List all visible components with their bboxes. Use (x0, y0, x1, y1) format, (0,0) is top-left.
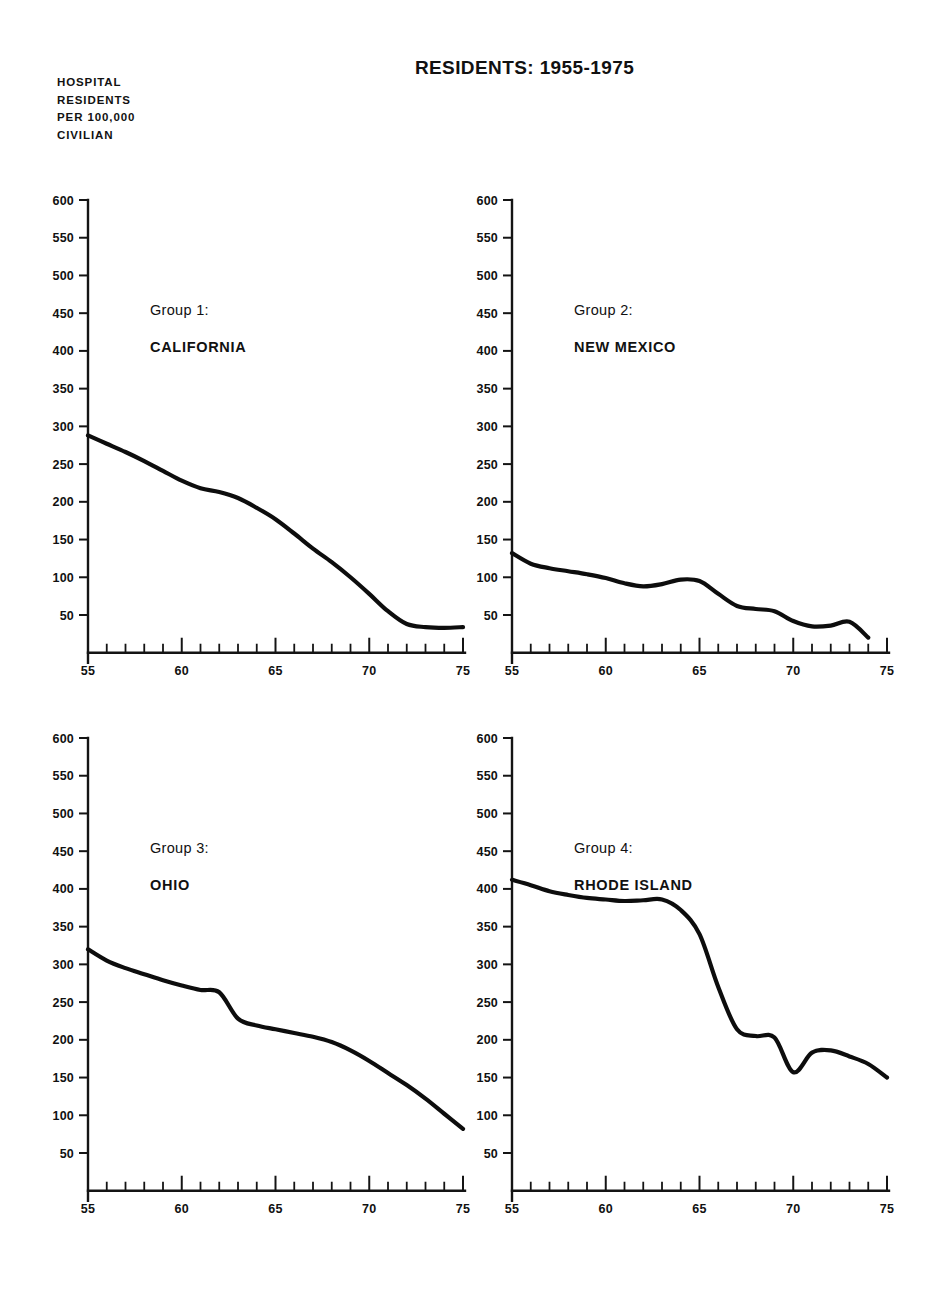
y-tick-label: 400 (477, 344, 498, 358)
y-tick-label: 350 (477, 920, 498, 934)
y-tick-label: 600 (477, 732, 498, 746)
panel-4-yaxis: 50100150200250300350400450500550600 (477, 732, 512, 1201)
y-tick-label: 200 (53, 495, 74, 509)
y-tick-label: 550 (477, 231, 498, 245)
y-tick-label: 550 (53, 231, 74, 245)
x-tick-label: 70 (786, 1202, 800, 1216)
y-tick-label: 300 (477, 420, 498, 434)
panel-2-group-label: Group 2: (574, 302, 633, 318)
x-tick-label: 55 (505, 1202, 519, 1216)
series-line-new-mexico (512, 553, 868, 638)
y-tick-label: 300 (53, 420, 74, 434)
panel-2-group-name: NEW MEXICO (574, 339, 676, 355)
panel-rhode-island: 50100150200250300350400450500550600 5560… (444, 723, 914, 1233)
panel-4-group-label: Group 4: (574, 840, 633, 856)
series-line-rhode-island (512, 880, 887, 1078)
panel-2-svg: 50100150200250300350400450500550600 5560… (444, 185, 914, 695)
y-tick-label: 100 (477, 1109, 498, 1123)
y-axis-caption: HOSPITALRESIDENTSPER 100,000CIVILIAN (57, 74, 135, 144)
y-tick-label: 200 (477, 495, 498, 509)
x-tick-label: 60 (599, 1202, 613, 1216)
y-tick-label: 550 (477, 769, 498, 783)
y-tick-label: 450 (477, 307, 498, 321)
x-tick-label: 65 (692, 1202, 706, 1216)
panel-2-xaxis: 5560657075 (505, 638, 894, 678)
panel-1-xaxis: 5560657075 (81, 638, 470, 678)
chart-page: HOSPITALRESIDENTSPER 100,000CIVILIAN RES… (0, 0, 934, 1307)
panel-1-yaxis: 50100150200250300350400450500550600 (53, 194, 88, 663)
panel-3-xaxis: 5560657075 (81, 1176, 470, 1216)
y-tick-label: 350 (477, 382, 498, 396)
panel-3-group-label: Group 3: (150, 840, 209, 856)
y-tick-label: 400 (477, 882, 498, 896)
panel-3-yaxis: 50100150200250300350400450500550600 (53, 732, 88, 1201)
panel-4-group-name: RHODE ISLAND (574, 877, 693, 893)
series-line-ohio (88, 949, 463, 1129)
y-tick-label: 600 (53, 194, 74, 208)
y-tick-label: 350 (53, 382, 74, 396)
x-tick-label: 75 (880, 664, 894, 678)
y-tick-label: 600 (477, 194, 498, 208)
panel-new-mexico: 50100150200250300350400450500550600 5560… (444, 185, 914, 695)
y-tick-label: 50 (484, 1147, 498, 1161)
y-tick-label: 250 (53, 458, 74, 472)
panel-ohio: 50100150200250300350400450500550600 5560… (20, 723, 490, 1233)
y-tick-label: 450 (53, 845, 74, 859)
y-tick-label: 400 (53, 882, 74, 896)
y-tick-label: 500 (477, 807, 498, 821)
x-tick-label: 60 (599, 664, 613, 678)
y-tick-label: 150 (477, 1071, 498, 1085)
y-tick-label: 250 (477, 996, 498, 1010)
y-tick-label: 100 (477, 571, 498, 585)
x-tick-label: 65 (268, 1202, 282, 1216)
panel-3-svg: 50100150200250300350400450500550600 5560… (20, 723, 490, 1233)
y-tick-label: 150 (53, 533, 74, 547)
x-tick-label: 70 (362, 664, 376, 678)
y-tick-label: 500 (477, 269, 498, 283)
y-tick-label: 350 (53, 920, 74, 934)
panel-3-group-name: OHIO (150, 877, 190, 893)
x-tick-label: 65 (692, 664, 706, 678)
y-tick-label: 600 (53, 732, 74, 746)
y-tick-label: 50 (484, 609, 498, 623)
y-tick-label: 150 (53, 1071, 74, 1085)
x-tick-label: 75 (880, 1202, 894, 1216)
panel-4-svg: 50100150200250300350400450500550600 5560… (444, 723, 914, 1233)
y-tick-label: 450 (477, 845, 498, 859)
panel-1-group-label: Group 1: (150, 302, 209, 318)
y-tick-label: 100 (53, 571, 74, 585)
y-tick-label: 300 (53, 958, 74, 972)
x-tick-label: 55 (505, 664, 519, 678)
x-tick-label: 65 (268, 664, 282, 678)
x-tick-label: 60 (175, 1202, 189, 1216)
page-title: RESIDENTS: 1955-1975 (0, 57, 934, 79)
y-tick-label: 150 (477, 533, 498, 547)
y-tick-label: 500 (53, 269, 74, 283)
x-tick-label: 55 (81, 1202, 95, 1216)
y-tick-label: 200 (53, 1033, 74, 1047)
y-tick-label: 500 (53, 807, 74, 821)
panel-1-svg: 50100150200250300350400450500550600 5560… (20, 185, 490, 695)
x-tick-label: 70 (786, 664, 800, 678)
y-tick-label: 300 (477, 958, 498, 972)
y-tick-label: 550 (53, 769, 74, 783)
y-tick-label: 250 (53, 996, 74, 1010)
y-tick-label: 100 (53, 1109, 74, 1123)
x-tick-label: 60 (175, 664, 189, 678)
y-tick-label: 50 (60, 1147, 74, 1161)
y-tick-label: 400 (53, 344, 74, 358)
series-line-california (88, 435, 463, 627)
y-tick-label: 250 (477, 458, 498, 472)
panel-2-yaxis: 50100150200250300350400450500550600 (477, 194, 512, 663)
panel-1-group-name: CALIFORNIA (150, 339, 246, 355)
y-tick-label: 50 (60, 609, 74, 623)
y-tick-label: 450 (53, 307, 74, 321)
x-tick-label: 70 (362, 1202, 376, 1216)
x-tick-label: 55 (81, 664, 95, 678)
panel-california: 50100150200250300350400450500550600 5560… (20, 185, 490, 695)
panel-4-xaxis: 5560657075 (505, 1176, 894, 1216)
y-tick-label: 200 (477, 1033, 498, 1047)
